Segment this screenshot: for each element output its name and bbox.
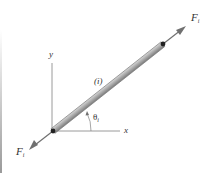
truss-member: [51, 42, 165, 133]
x-axis-label: x: [124, 126, 128, 135]
joint-top: [161, 42, 166, 47]
force-bottom-subscript: i: [23, 152, 25, 158]
truss-member-diagram: [0, 0, 211, 173]
force-bottom-symbol: F: [16, 145, 23, 157]
force-arrow-bottom-head: [29, 140, 38, 150]
angle-arc-arrowhead: [86, 111, 90, 116]
force-label-bottom: Fi: [16, 146, 24, 158]
angle-arc: [87, 113, 91, 131]
member-label: (i): [94, 77, 103, 86]
force-arrow-bottom-shaft: [35, 131, 53, 145]
force-top-symbol: F: [191, 11, 198, 23]
angle-subscript: i: [97, 117, 99, 123]
force-top-subscript: i: [198, 18, 200, 24]
y-axis-label: y: [49, 50, 53, 59]
angle-label: θi: [93, 113, 99, 123]
force-arrow-top-head: [176, 26, 186, 35]
force-label-top: Fi: [191, 12, 199, 24]
joint-bottom: [51, 129, 56, 134]
